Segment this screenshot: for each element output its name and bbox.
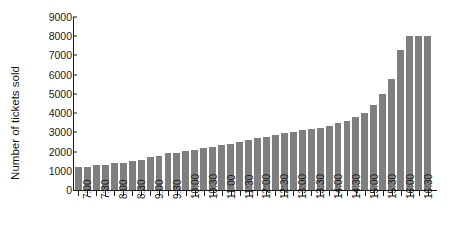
x-tick-mark — [347, 191, 348, 196]
bar-chart: Number of tickets sold 01000200030004000… — [0, 0, 456, 246]
x-tick-label: 10:00 — [190, 174, 201, 199]
x-tick-mark — [114, 191, 115, 196]
x-tick-label: 12:30 — [279, 174, 290, 199]
bar — [405, 36, 414, 190]
x-tick-label: 15:00 — [369, 174, 380, 199]
x-tick-label: 14:30 — [351, 174, 362, 199]
x-tick-label: 9:00 — [154, 180, 165, 199]
x-tick-label: 8:00 — [118, 180, 129, 199]
x-tick-label: 7:00 — [82, 180, 93, 199]
y-tick-label: 1000 — [34, 165, 72, 177]
x-tick-mark — [150, 191, 151, 196]
x-tick-mark — [419, 191, 420, 196]
bar — [414, 36, 423, 190]
x-tick-mark — [293, 191, 294, 196]
x-tick-label: 15:30 — [387, 174, 398, 199]
y-tick-label: 2000 — [34, 146, 72, 158]
x-tick-label: 11:00 — [226, 175, 237, 199]
x-tick-mark — [401, 191, 402, 196]
x-tick-label: 8:30 — [136, 180, 147, 199]
x-tick-label: 10:30 — [208, 174, 219, 199]
x-tick-mark — [383, 191, 384, 196]
x-tick-label: 12:00 — [261, 174, 272, 199]
x-tick-mark — [257, 191, 258, 196]
y-tick-label: 4000 — [34, 107, 72, 119]
x-tick-label: 9:30 — [172, 180, 183, 199]
x-tick-mark — [329, 191, 330, 196]
x-tick-label: 14:00 — [333, 174, 344, 199]
x-tick-mark — [365, 191, 366, 196]
y-tick-label: 3000 — [34, 126, 72, 138]
bar — [423, 36, 432, 190]
y-tick-label: 9000 — [34, 11, 72, 23]
y-axis-title: Number of tickets sold — [0, 0, 30, 246]
x-tick-mark — [204, 191, 205, 196]
y-tick-label: 6000 — [34, 69, 72, 81]
y-tick-label: 5000 — [34, 88, 72, 100]
x-tick-label: 11:30 — [244, 175, 255, 199]
x-tick-label: 16:00 — [405, 174, 416, 199]
y-tick-label: 8000 — [34, 30, 72, 42]
x-tick-label: 13:00 — [297, 174, 308, 199]
x-tick-label: 16:30 — [423, 174, 434, 199]
x-tick-mark — [132, 191, 133, 196]
x-tick-mark — [186, 191, 187, 196]
x-tick-mark — [275, 191, 276, 196]
x-tick-mark — [78, 191, 79, 196]
x-tick-mark — [168, 191, 169, 196]
x-tick-label: 13:30 — [315, 174, 326, 199]
y-axis-ticks: 0100020003000400050006000700080009000 — [34, 0, 72, 246]
plot-area — [74, 17, 432, 190]
x-tick-mark — [240, 191, 241, 196]
bar — [396, 50, 405, 190]
x-tick-label: 7:30 — [100, 180, 111, 199]
x-tick-mark — [311, 191, 312, 196]
y-tick-label: 0 — [34, 184, 72, 196]
x-tick-mark — [222, 191, 223, 196]
x-tick-mark — [96, 191, 97, 196]
y-tick-label: 7000 — [34, 49, 72, 61]
